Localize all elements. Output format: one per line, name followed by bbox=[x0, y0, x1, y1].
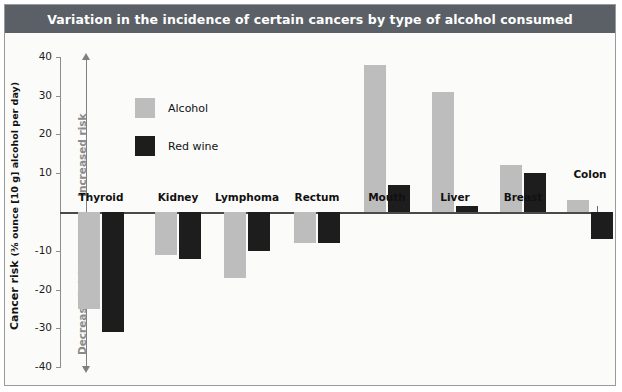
y-axis-tick-label: 40 bbox=[0, 50, 52, 62]
y-axis-tick bbox=[56, 134, 61, 135]
bar-breast-alcohol bbox=[500, 165, 522, 212]
y-axis-tick bbox=[56, 367, 61, 368]
category-label-thyroid: Thyroid bbox=[68, 191, 134, 203]
y-axis-tick bbox=[56, 57, 61, 58]
y-axis-tick-label: 10 bbox=[0, 166, 52, 178]
legend-label-alcohol: Alcohol bbox=[168, 102, 208, 115]
y-axis-tick bbox=[56, 290, 61, 291]
bar-kidney-alcohol bbox=[155, 212, 177, 255]
y-axis-tick-label: -30 bbox=[0, 321, 52, 333]
category-label-breast: Breast bbox=[490, 191, 556, 203]
category-label-kidney: Kidney bbox=[145, 191, 211, 203]
y-axis-tick-label: 30 bbox=[0, 89, 52, 101]
y-axis-tick-label: -10 bbox=[0, 244, 52, 256]
category-label-rectum: Rectum bbox=[284, 191, 350, 203]
y-axis-tick bbox=[56, 96, 61, 97]
bar-kidney-redwine bbox=[179, 212, 201, 259]
chart-legend: AlcoholRed wine bbox=[135, 98, 218, 174]
y-axis-tick-label: -20 bbox=[0, 283, 52, 295]
bar-liver-redwine bbox=[456, 206, 478, 212]
bar-colon-alcohol bbox=[567, 200, 589, 212]
legend-swatch-redwine-icon bbox=[135, 136, 155, 156]
legend-item-redwine: Red wine bbox=[135, 136, 218, 156]
category-label-liver: Liver bbox=[422, 191, 488, 203]
page-title: Variation in the incidence of certain ca… bbox=[47, 12, 573, 27]
bar-thyroid-redwine bbox=[102, 212, 124, 332]
category-label-lymphoma: Lymphoma bbox=[214, 191, 280, 203]
legend-swatch-alcohol-icon bbox=[135, 98, 155, 118]
bar-mouth-alcohol bbox=[364, 65, 386, 212]
bar-rectum-alcohol bbox=[294, 212, 316, 243]
legend-item-alcohol: Alcohol bbox=[135, 98, 218, 118]
bar-colon-redwine bbox=[591, 212, 613, 239]
category-label-colon: Colon bbox=[557, 168, 622, 180]
chart-title-bar: Variation in the incidence of certain ca… bbox=[5, 5, 615, 33]
chart-page: Variation in the incidence of certain ca… bbox=[0, 0, 622, 392]
category-label-mouth: Mouth bbox=[354, 191, 420, 203]
arrow-down-icon bbox=[82, 366, 90, 373]
bar-lymphoma-alcohol bbox=[224, 212, 246, 278]
y-axis-tick bbox=[56, 173, 61, 174]
plot-area: Increased risk Decreased risk ThyroidKid… bbox=[60, 45, 600, 375]
arrow-up-icon bbox=[82, 53, 90, 60]
y-axis-tick bbox=[56, 328, 61, 329]
y-axis-tick-label: 20 bbox=[0, 127, 52, 139]
legend-label-redwine: Red wine bbox=[168, 140, 218, 153]
bar-lymphoma-redwine bbox=[248, 212, 270, 251]
bar-rectum-redwine bbox=[318, 212, 340, 243]
increased-risk-label: Increased risk bbox=[76, 113, 88, 197]
y-axis-tick bbox=[56, 251, 61, 252]
bar-thyroid-alcohol bbox=[78, 212, 100, 309]
y-axis-tick-label: -40 bbox=[0, 360, 52, 372]
